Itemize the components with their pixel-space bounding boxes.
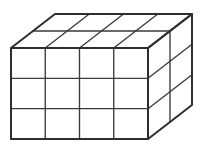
- figure-root: Rectangular prism divided into unit cube…: [0, 0, 203, 149]
- cuboid-diagram: Rectangular prism divided into unit cube…: [0, 0, 203, 149]
- face-fills: [11, 14, 192, 139]
